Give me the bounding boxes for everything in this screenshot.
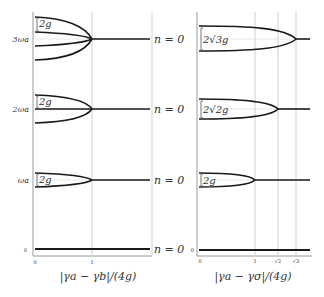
n-label-1: n = 0 bbox=[154, 174, 184, 187]
left-x-axis-label: |γa − γb|/(4g) bbox=[60, 270, 137, 284]
left-gap-label-3: 2g bbox=[38, 18, 52, 29]
n-label-0: n = 0 bbox=[154, 243, 184, 256]
left-gap-label-1: 2g bbox=[38, 174, 52, 185]
right-gap-label-2: 2√2g bbox=[202, 104, 229, 115]
right-x-axis-label: |γa − γσ|/(4g) bbox=[214, 270, 291, 284]
right-ytick-0: 0 bbox=[191, 247, 194, 253]
right-gap-label-1: 2g bbox=[202, 175, 216, 186]
left-ytick-0: 0 bbox=[24, 247, 27, 253]
left-gap-label-2: 2g bbox=[38, 96, 52, 107]
right-gap-label-3: 2√3g bbox=[202, 34, 229, 45]
left-xtick-1: 1 bbox=[90, 259, 93, 265]
n-label-2: n = 0 bbox=[154, 103, 184, 116]
right-xtick-1: 1 bbox=[253, 258, 256, 264]
right-panel: 2√3g 2√2g 2g 0 0 1 √2 √3 |γa − γσ|/(4g) bbox=[191, 12, 312, 284]
left-ytick-wa: ωa bbox=[18, 176, 30, 185]
right-xtick-sqrt2: √2 bbox=[275, 258, 281, 264]
n-labels: n = 0 n = 0 n = 0 n = 0 bbox=[154, 33, 184, 256]
n-label-3: n = 0 bbox=[154, 33, 184, 46]
left-ytick-2wa: 2ωa bbox=[12, 105, 30, 114]
left-xtick-0: 0 bbox=[33, 259, 36, 265]
figure-canvas: 2g 2g 2g 3ωa 2ωa ωa 0 0 1 |γa − γb|/(4g)… bbox=[0, 0, 324, 297]
left-ytick-3wa: 3ωa bbox=[13, 35, 30, 44]
left-panel: 2g 2g 2g 3ωa 2ωa ωa 0 0 1 |γa − γb|/(4g) bbox=[12, 12, 152, 284]
right-xtick-0: 0 bbox=[198, 258, 201, 264]
right-xtick-sqrt3: √3 bbox=[293, 258, 299, 264]
